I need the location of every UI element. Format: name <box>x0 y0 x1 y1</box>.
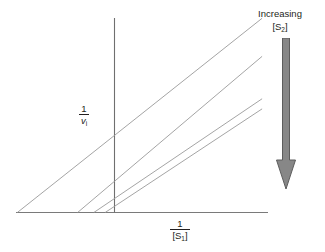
annotation-line-1: Increasing <box>236 8 324 20</box>
y-axis-label: 1 vi <box>62 104 106 126</box>
x-axis-denominator-open: [S <box>172 230 181 241</box>
arrow-shape <box>277 38 296 189</box>
x-axis-fraction: 1 [S1] <box>170 219 189 241</box>
data-line-2 <box>78 56 263 212</box>
y-axis-denominator-symbol: v <box>81 115 86 126</box>
x-axis-denominator: [S1] <box>170 231 189 241</box>
y-axis-numerator: 1 <box>79 104 89 114</box>
x-axis-numerator: 1 <box>170 219 189 229</box>
increasing-s2-annotation: Increasing [S2] <box>236 8 324 34</box>
y-axis-denominator-subscript: i <box>86 120 87 127</box>
y-axis-fraction: 1 vi <box>79 104 89 126</box>
x-axis-label: 1 [S1] <box>150 219 210 241</box>
data-line-3 <box>94 99 262 213</box>
down-arrow-svg <box>274 38 298 190</box>
y-axis-denominator: vi <box>79 116 89 126</box>
annotation-line-2: [S2] <box>236 21 324 34</box>
lineweaver-burk-figure: 1 vi 1 [S1] Increasing [S2] <box>0 0 325 252</box>
x-axis-denominator-close: ] <box>185 230 188 241</box>
x-axis-denominator-subscript: 1 <box>181 235 185 242</box>
annotation-bracket-close: ] <box>285 21 288 32</box>
annotation-subscript: 2 <box>281 26 285 33</box>
down-arrow-icon <box>274 38 298 190</box>
annotation-bracket-open: [S <box>272 21 281 32</box>
data-line-1 <box>17 18 262 212</box>
